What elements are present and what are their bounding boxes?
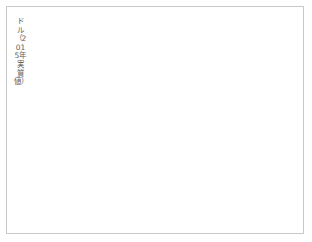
y-axis-label: ドル（2015年実質値） <box>14 18 27 87</box>
chart-frame-border <box>6 6 304 234</box>
chart-container: ドル（2015年実質値） 020040060080010001200140016… <box>0 0 312 242</box>
